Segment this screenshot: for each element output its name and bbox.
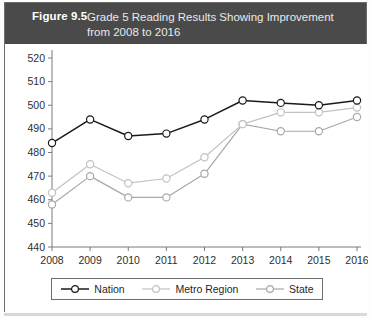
data-point-marker (125, 180, 132, 187)
figure-title: Grade 5 Reading Results Showing Improvem… (87, 10, 352, 40)
data-point-marker (201, 116, 208, 123)
data-point-marker (239, 97, 246, 104)
legend-marker-icon (60, 283, 90, 295)
data-point-marker (201, 170, 208, 177)
data-point-marker (315, 128, 322, 135)
series-nation (48, 97, 360, 147)
figure-title-line-1: Grade 5 Reading Results Showing Improvem… (87, 10, 352, 25)
x-axis-tick-label: 2011 (155, 254, 178, 266)
x-axis-tick-label: 2008 (40, 254, 64, 266)
y-axis-tick-label: 500 (27, 99, 45, 111)
data-point-marker (87, 116, 94, 123)
figure-header: Figure 9.5 Grade 5 Reading Results Showi… (5, 3, 366, 44)
legend-marker-icon (255, 283, 285, 295)
data-point-marker (163, 130, 170, 137)
legend-marker-icon (141, 283, 171, 295)
x-axis-tick-label: 2012 (193, 254, 217, 266)
figure-number: Figure 9.5 (32, 10, 87, 22)
chart-series-group (48, 97, 360, 208)
data-point-marker (125, 194, 132, 201)
figure-title-line-2: from 2008 to 2016 (87, 25, 352, 40)
chart-legend: NationMetro RegionState (51, 278, 323, 300)
data-point-marker (277, 99, 284, 106)
y-axis-tick-label: 490 (27, 122, 45, 134)
data-point-marker (277, 109, 284, 116)
legend-item-nation[interactable]: Nation (60, 283, 124, 295)
data-point-marker (315, 102, 322, 109)
data-point-marker (353, 113, 360, 120)
data-point-marker (87, 161, 94, 168)
x-axis-tick-label: 2014 (269, 254, 293, 266)
figure-container: Figure 9.5 Grade 5 Reading Results Showi… (0, 0, 371, 318)
x-axis-tick-label: 2009 (78, 254, 102, 266)
data-point-marker (315, 109, 322, 116)
y-axis-tick-label: 440 (27, 241, 45, 253)
data-point-marker (48, 189, 55, 196)
y-axis-tick-label: 480 (27, 146, 45, 158)
data-point-marker (125, 132, 132, 139)
y-axis-tick-label: 510 (27, 75, 45, 87)
y-axis: 440450460470480490500510520 (27, 50, 52, 253)
legend-item-state[interactable]: State (255, 283, 314, 295)
legend-label: State (289, 283, 314, 295)
data-point-marker (48, 139, 55, 146)
data-point-marker (163, 175, 170, 182)
y-axis-tick-label: 460 (27, 193, 45, 205)
data-point-marker (239, 121, 246, 128)
legend-item-metro-region[interactable]: Metro Region (141, 283, 238, 295)
data-point-marker (277, 128, 284, 135)
data-point-marker (353, 104, 360, 111)
x-axis-tick-label: 2015 (307, 254, 331, 266)
x-axis-tick-label: 2010 (117, 254, 141, 266)
legend-label: Metro Region (175, 283, 238, 295)
line-chart: 440450460470480490500510520 200820092010… (5, 44, 368, 312)
figure-frame: Figure 9.5 Grade 5 Reading Results Showi… (4, 2, 367, 312)
y-axis-tick-label: 470 (27, 170, 45, 182)
y-axis-tick-label: 520 (27, 52, 45, 64)
x-axis-tick-label: 2016 (345, 254, 368, 266)
data-point-marker (353, 97, 360, 104)
data-point-marker (163, 194, 170, 201)
x-axis-tick-label: 2013 (231, 254, 255, 266)
y-axis-tick-label: 450 (27, 217, 45, 229)
data-point-marker (201, 154, 208, 161)
legend-label: Nation (94, 283, 124, 295)
chart-plot-area: 440450460470480490500510520 200820092010… (5, 44, 368, 312)
data-point-marker (87, 173, 94, 180)
data-point-marker (48, 201, 55, 208)
figure-bottom-shadow (4, 313, 367, 316)
x-axis: 200820092010201120122013201420152016 (40, 247, 368, 266)
